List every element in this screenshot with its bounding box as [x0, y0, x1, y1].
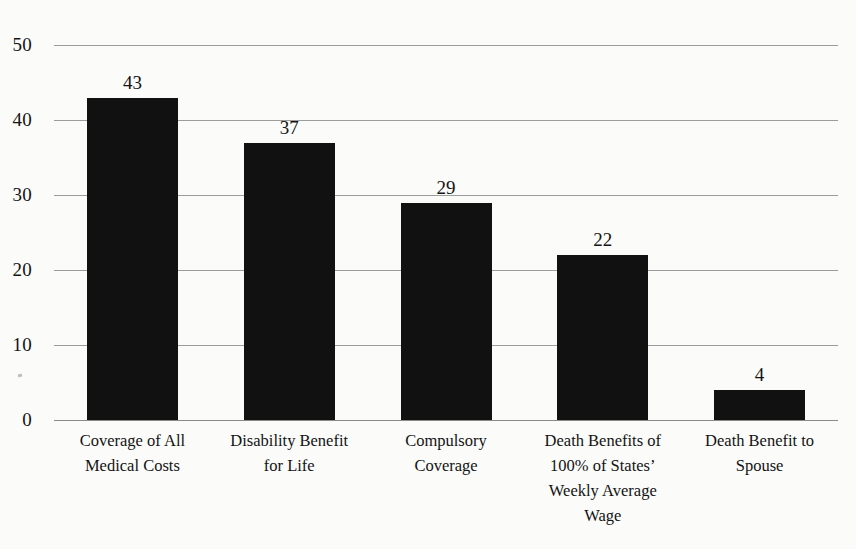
- bar-value-label: 22: [563, 230, 643, 249]
- plot-area: [54, 45, 838, 420]
- y-tick-label-20: 20: [0, 260, 32, 279]
- category-label-line: Coverage: [368, 453, 525, 478]
- y-tick-label-30: 30: [0, 185, 32, 204]
- bar: [714, 390, 805, 420]
- y-tick-label-10: 10: [0, 335, 32, 354]
- category-label-line: Death Benefit to: [681, 428, 838, 453]
- category-label-line: Wage: [524, 503, 681, 528]
- x-axis-category-label: Death Benefit toSpouse: [681, 428, 838, 478]
- bar: [557, 255, 648, 420]
- x-axis-baseline: [54, 420, 838, 421]
- category-label-line: Spouse: [681, 453, 838, 478]
- scan-artifact-speck: [18, 373, 23, 377]
- bar: [401, 203, 492, 421]
- category-label-line: Disability Benefit: [211, 428, 368, 453]
- y-tick-label-40: 40: [0, 110, 32, 129]
- bar-chart: 01020304050 433729224 Coverage of AllMed…: [0, 0, 856, 549]
- category-label-line: 100% of States’: [524, 453, 681, 478]
- bar-value-label: 43: [92, 73, 172, 92]
- y-tick-label-50: 50: [0, 35, 32, 54]
- x-axis-category-label: Coverage of AllMedical Costs: [54, 428, 211, 478]
- bar-value-label: 4: [720, 365, 800, 384]
- category-label-line: Compulsory: [368, 428, 525, 453]
- category-label-line: Medical Costs: [54, 453, 211, 478]
- x-axis-category-label: Death Benefits of100% of States’Weekly A…: [524, 428, 681, 528]
- y-tick-label-0: 0: [0, 410, 32, 429]
- bar-value-label: 37: [249, 118, 329, 137]
- bar-value-label: 29: [406, 178, 486, 197]
- gridline-50: [54, 45, 838, 46]
- category-label-line: Weekly Average: [524, 478, 681, 503]
- bar: [87, 98, 178, 421]
- category-label-line: Death Benefits of: [524, 428, 681, 453]
- bar: [244, 143, 335, 421]
- category-label-line: Coverage of All: [54, 428, 211, 453]
- x-axis-category-label: Disability Benefitfor Life: [211, 428, 368, 478]
- category-label-line: for Life: [211, 453, 368, 478]
- x-axis-category-label: CompulsoryCoverage: [368, 428, 525, 478]
